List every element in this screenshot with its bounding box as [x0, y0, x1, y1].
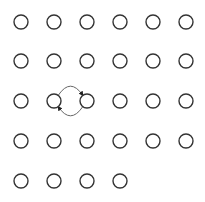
graph-node-r3-c2 — [80, 134, 94, 148]
graph-node-r0-c2 — [80, 15, 94, 29]
graph-node-r3-c1 — [47, 134, 61, 148]
graph-node-r1-c4 — [146, 54, 160, 68]
graph-node-r2-c3 — [113, 94, 127, 108]
graph-node-r2-c0 — [14, 94, 28, 108]
graph-node-r1-c5 — [179, 54, 193, 68]
graph-node-r2-c1 — [47, 94, 61, 108]
graph-node-r3-c0 — [14, 134, 28, 148]
graph-edge-upper-arrow — [58, 86, 83, 95]
graph-edge-lower-arrow — [58, 107, 83, 116]
graph-node-r1-c2 — [80, 54, 94, 68]
graph-node-r4-c3 — [113, 174, 127, 188]
graph-node-r2-c5 — [179, 94, 193, 108]
graph-node-r0-c3 — [113, 15, 127, 29]
graph-node-r0-c5 — [179, 15, 193, 29]
graph-node-r0-c1 — [47, 15, 61, 29]
graph-node-r1-c3 — [113, 54, 127, 68]
graph-node-r4-c0 — [14, 174, 28, 188]
graph-node-r2-c2 — [80, 94, 94, 108]
graph-node-r0-c4 — [146, 15, 160, 29]
graph-node-r3-c4 — [146, 134, 160, 148]
edge-layer — [58, 86, 83, 116]
graph-node-r2-c4 — [146, 94, 160, 108]
graph-node-r1-c1 — [47, 54, 61, 68]
graph-node-r1-c0 — [14, 54, 28, 68]
graph-node-r4-c2 — [80, 174, 94, 188]
graph-node-r4-c1 — [47, 174, 61, 188]
node-layer — [14, 15, 193, 188]
graph-node-r3-c5 — [179, 134, 193, 148]
graph-canvas — [0, 0, 205, 202]
graph-node-r0-c0 — [14, 15, 28, 29]
graph-node-r3-c3 — [113, 134, 127, 148]
